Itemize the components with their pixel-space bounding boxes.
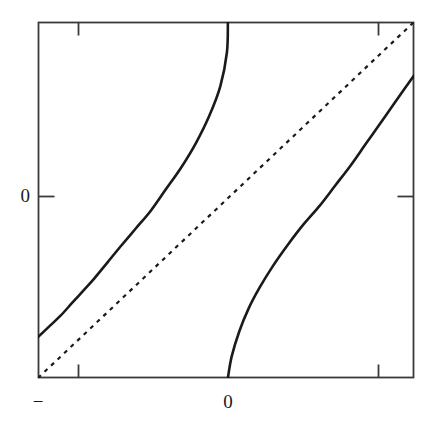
map-branch-left-curve (38, 22, 228, 337)
plot-canvas (0, 0, 434, 422)
x-axis-label-zero: 0 (216, 392, 240, 411)
map-branch-right-curve (228, 75, 414, 378)
x-axis-label-minus: − (26, 392, 50, 411)
y-axis-label-zero: 0 (8, 186, 30, 205)
identity-line-dashed (38, 22, 414, 378)
plot-frame (39, 23, 414, 378)
figure-container: 0 − 0 (0, 0, 434, 422)
